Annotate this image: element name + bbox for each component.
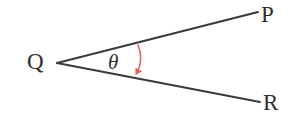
angle-arc (137, 45, 141, 73)
angle-diagram-figure: Q P R θ (0, 0, 298, 123)
ray-q-to-r (57, 63, 260, 102)
angle-diagram-svg (0, 0, 298, 123)
vertex-label-q: Q (27, 50, 44, 73)
ray-endpoint-label-r: R (263, 91, 278, 114)
ray-endpoint-label-p: P (261, 3, 274, 26)
angle-label-theta: θ (108, 52, 118, 73)
ray-q-to-p (57, 12, 258, 63)
